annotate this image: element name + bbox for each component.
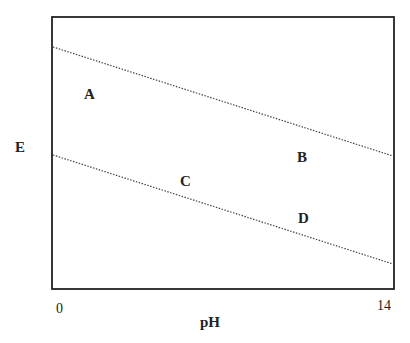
diagram-canvas: A B C D E pH 0 14 (0, 0, 410, 343)
lower-dotted-line (53, 155, 393, 264)
upper-dotted-line (53, 47, 393, 156)
region-label-a: A (84, 86, 95, 102)
x-tick-min: 0 (56, 301, 63, 316)
x-axis-label: pH (200, 314, 220, 330)
pourbaix-diagram: A B C D E pH 0 14 (0, 0, 410, 343)
x-tick-max: 14 (377, 298, 391, 313)
region-label-d: D (298, 210, 309, 226)
y-axis-label: E (15, 139, 25, 155)
region-label-c: C (180, 173, 191, 189)
region-label-b: B (297, 149, 307, 165)
